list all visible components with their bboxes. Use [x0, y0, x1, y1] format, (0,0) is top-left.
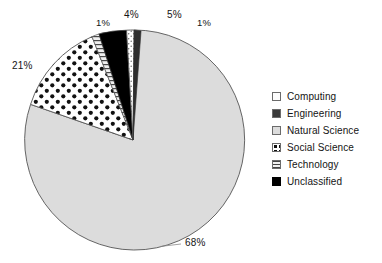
- computing-swatch-icon: [272, 92, 281, 101]
- legend-item-engineering[interactable]: Engineering: [272, 105, 382, 122]
- pct-label-social-science: 21%: [12, 61, 33, 71]
- pct-label-computing: 5%: [167, 10, 182, 20]
- legend-label-technology: Technology: [287, 160, 339, 170]
- natural-science-swatch-icon: [272, 126, 281, 135]
- legend-label-unclassified: Unclassified: [287, 177, 342, 187]
- pct-label-unclassified: 4%: [124, 10, 139, 20]
- legend-item-natural-science[interactable]: Natural Science: [272, 122, 382, 139]
- legend-item-technology[interactable]: Technology: [272, 156, 382, 173]
- legend-item-unclassified[interactable]: Unclassified: [272, 173, 382, 190]
- pct-label-engineering: 1%: [197, 18, 211, 28]
- pct-label-technology: 1%: [96, 18, 110, 28]
- unclassified-swatch-icon: [272, 177, 281, 186]
- legend-label-engineering: Engineering: [287, 109, 341, 119]
- legend-label-natural-science: Natural Science: [287, 126, 359, 136]
- legend-label-computing: Computing: [287, 92, 336, 102]
- engineering-swatch-icon: [272, 109, 281, 118]
- pct-label-natural-science: 68%: [185, 238, 206, 248]
- pie-chart-figure: 1% 4% 5% 1% 21% 68% Computing Engineerin…: [0, 0, 382, 263]
- chart-legend: Computing Engineering Natural Science So…: [272, 88, 382, 190]
- technology-swatch-icon: [272, 160, 281, 169]
- legend-item-social-science[interactable]: Social Science: [272, 139, 382, 156]
- legend-item-computing[interactable]: Computing: [272, 88, 382, 105]
- legend-label-social-science: Social Science: [287, 143, 354, 153]
- social-science-swatch-icon: [272, 143, 281, 152]
